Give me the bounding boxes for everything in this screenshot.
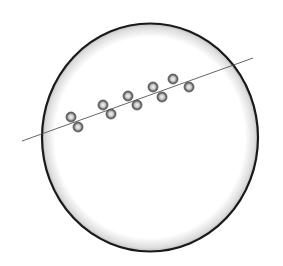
particle-sphere [123, 91, 133, 101]
particle-sphere [148, 82, 158, 92]
boundary-circle [42, 24, 258, 252]
particle-sphere [157, 92, 167, 102]
diagram-canvas [0, 0, 283, 266]
particle-sphere [73, 122, 83, 132]
particle-sphere [168, 74, 178, 84]
particle-sphere [132, 100, 142, 110]
particle-sphere [106, 109, 116, 119]
particle-sphere [66, 112, 76, 122]
particle-sphere [184, 82, 194, 92]
particle-sphere [98, 100, 108, 110]
